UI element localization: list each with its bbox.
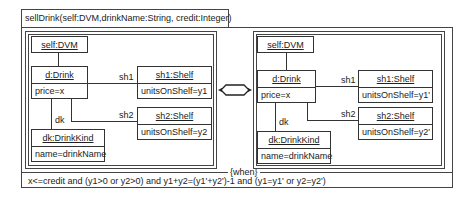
right-sh1-shelf: sh1:Shelf unitsOnShelf=y1' (358, 70, 433, 103)
left-drink: d:Drink price=x (31, 66, 88, 99)
right-link-drink-sh2-h (307, 120, 358, 121)
right-link-self-drink (286, 53, 287, 70)
left-drinkkind: dk:DrinkKind name=drinkName (31, 129, 105, 162)
operation-signature: sellDrink(self:DVM,drinkName:String, cre… (21, 9, 229, 28)
left-link-drink-sh2-v (71, 99, 72, 121)
left-sh1-shelf: sh1:Shelf unitsOnShelf=y1 (137, 66, 212, 99)
right-link-drink-kind (275, 103, 276, 132)
left-sh2-shelf: sh2:Shelf unitsOnShelf=y2 (137, 107, 212, 140)
left-link-drink-kind (51, 99, 52, 129)
condition-text: x<=credit and (y1>0 or y2>0) and y1+y2=(… (28, 176, 326, 186)
left-link-drink-sh2-h (71, 121, 137, 122)
right-self-dvm: self:DVM (257, 36, 314, 53)
right-link-drink-sh1 (316, 86, 360, 87)
left-link-drink-sh1 (88, 83, 137, 84)
right-sh2-shelf: sh2:Shelf unitsOnShelf=y2' (358, 107, 433, 140)
left-link-self-drink (58, 53, 59, 66)
right-drink: d:Drink price=x (257, 70, 316, 103)
right-drinkkind: dk:DrinkKind name=drinkName (257, 131, 331, 164)
left-self-dvm: self:DVM (31, 36, 88, 53)
double-arrow-hexagon-icon (218, 84, 252, 96)
right-link-drink-sh2-v (307, 103, 308, 120)
